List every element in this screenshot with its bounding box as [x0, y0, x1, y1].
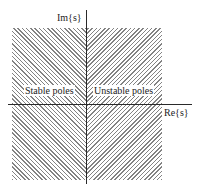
imaginary-axis-label: Im{s} — [57, 12, 82, 23]
real-axis — [8, 104, 192, 105]
real-axis-label: Re{s} — [164, 107, 189, 118]
stable-poles-label: Stable poles — [24, 85, 75, 96]
unstable-poles-label: Unstable poles — [93, 85, 154, 96]
imaginary-axis — [86, 10, 87, 184]
